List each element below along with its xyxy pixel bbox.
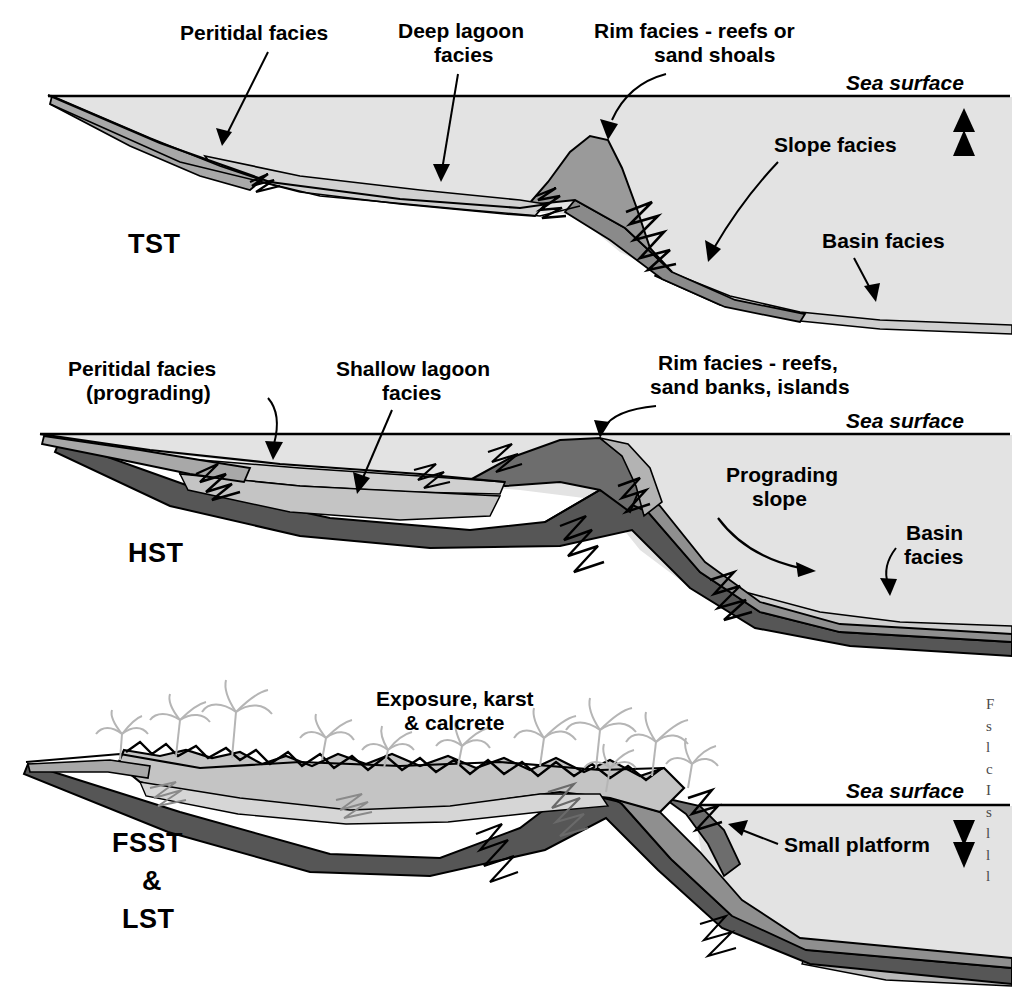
- caption-line-6: s: [986, 802, 1012, 824]
- label-exposure-karst-line1: Exposure, karst: [376, 687, 534, 710]
- palm-tree-icon-4: [300, 714, 354, 760]
- palm-tree-icon-3: [202, 680, 272, 758]
- label-deep-lagoon-facies-tst-line2: facies: [434, 43, 494, 66]
- tract-label-fsst-line2: &: [142, 866, 162, 896]
- panel-fsst-lst: Sea surface Exposure, karst & calcrete S…: [0, 672, 1012, 1006]
- label-prograding-slope-hst-line1: Prograding: [726, 463, 838, 486]
- label-deep-lagoon-facies-tst-line1: Deep lagoon: [398, 19, 524, 42]
- caption-line-1: F: [986, 694, 1012, 716]
- sea-surface-label-tst: Sea surface: [846, 71, 964, 94]
- palm-tree-icon-2: [150, 694, 210, 756]
- label-rim-facies-tst-line2: sand shoals: [654, 43, 775, 66]
- leader-rim-hst: [604, 406, 656, 428]
- label-slope-facies-tst: Slope facies: [774, 133, 897, 156]
- panel-hst: Sea surface Peritidal facies (prograding…: [0, 340, 1012, 680]
- figure-root: Sea surface Peritidal facies Deep lagoon…: [0, 0, 1012, 1006]
- label-basin-facies-hst-line2: facies: [904, 545, 964, 568]
- label-peritidal-facies-tst: Peritidal facies: [180, 21, 328, 44]
- label-peritidal-facies-hst-line2: (prograding): [86, 381, 211, 404]
- tract-label-fsst-line1: FSST: [112, 828, 183, 858]
- label-peritidal-facies-hst-line1: Peritidal facies: [68, 357, 216, 380]
- sea-surface-label-fsst: Sea surface: [846, 779, 964, 802]
- label-shallow-lagoon-hst-line2: facies: [382, 381, 442, 404]
- panel-tst: Sea surface Peritidal facies Deep lagoon…: [0, 0, 1012, 345]
- label-shallow-lagoon-hst-line1: Shallow lagoon: [336, 357, 490, 380]
- palm-tree-icon-8: [566, 698, 636, 768]
- label-prograding-slope-hst-line2: slope: [752, 487, 807, 510]
- caption-line-8: l: [986, 845, 1012, 867]
- palm-tree-icon-7: [514, 708, 576, 766]
- label-rim-facies-hst-line1: Rim facies - reefs,: [658, 351, 838, 374]
- label-exposure-karst-line2: & calcrete: [404, 711, 504, 734]
- caption-line-7: l: [986, 823, 1012, 845]
- tract-label-fsst-line3: LST: [122, 904, 175, 934]
- label-small-platform: Small platform: [784, 833, 930, 856]
- tract-label-tst: TST: [128, 229, 181, 259]
- label-basin-facies-hst-line1: Basin: [906, 521, 963, 544]
- label-rim-facies-tst-line1: Rim facies - reefs or: [594, 19, 795, 42]
- caption-line-3: l: [986, 737, 1012, 759]
- caption-line-4: c: [986, 759, 1012, 781]
- label-basin-facies-tst: Basin facies: [822, 229, 945, 252]
- sea-surface-label-hst: Sea surface: [846, 409, 964, 432]
- caption-column-clipped: F s l c I s l l l: [986, 694, 1012, 994]
- caption-line-9: l: [986, 866, 1012, 888]
- caption-line-2: s: [986, 716, 1012, 738]
- label-rim-facies-hst-line2: sand banks, islands: [650, 375, 850, 398]
- caption-line-5: I: [986, 780, 1012, 802]
- tract-label-hst: HST: [128, 538, 184, 568]
